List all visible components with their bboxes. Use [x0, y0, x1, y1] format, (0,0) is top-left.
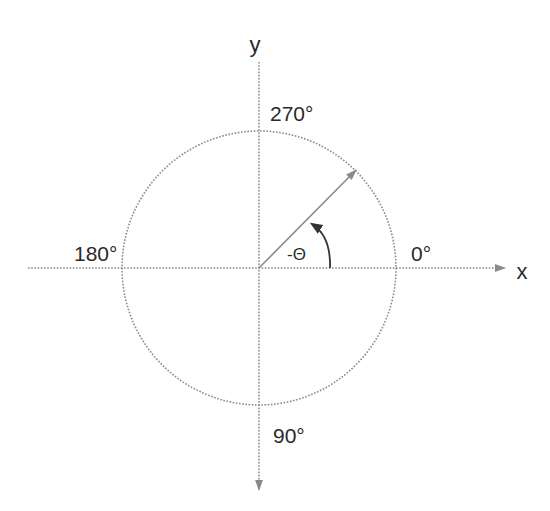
angle-arc-arrow	[312, 224, 330, 268]
y-axis-label: y	[250, 32, 261, 57]
x-axis-label: x	[517, 259, 528, 284]
unit-circle-diagram: y x 270° 180° 0° 90° -Θ	[0, 0, 550, 511]
angle-label-0: 0°	[411, 242, 431, 265]
theta-label: -Θ	[287, 245, 306, 264]
radius-vector	[259, 170, 356, 268]
angle-label-90: 90°	[273, 424, 305, 447]
angle-label-270: 270°	[270, 102, 313, 125]
angle-label-180: 180°	[74, 242, 117, 265]
